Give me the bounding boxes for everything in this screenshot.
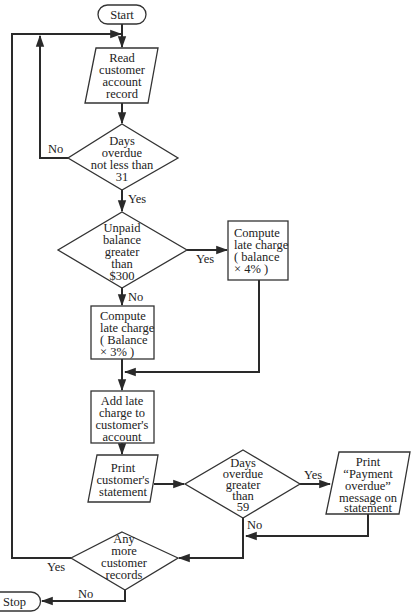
read-record-line: record [106, 87, 139, 101]
decision-days-overdue-59: Days overdue greater than 59 [185, 450, 300, 518]
decision-line: 31 [116, 170, 129, 184]
decision-days-overdue-31: Days overdue not less than 31 [68, 124, 178, 190]
print-payment-overdue-output: Print “Payment overdue” message on state… [326, 452, 410, 515]
process-line: × 3% ) [100, 345, 134, 359]
connector-days59-more [179, 518, 243, 558]
label-yes-more: Yes [47, 560, 65, 574]
connector-days31-no-loop [40, 36, 68, 158]
connectors [12, 24, 368, 601]
output-line: statement [344, 501, 392, 515]
start-label: Start [110, 8, 134, 22]
label-no-days31: No [48, 142, 63, 156]
decision-line: records [106, 568, 143, 582]
compute-late-charge-3pct: Compute late charge ( Balance × 3% ) [91, 306, 155, 359]
decision-balance-300: Unpaid balance greater than $300 [58, 212, 187, 288]
compute-late-charge-4pct: Compute late charge ( balance × 4% ) [228, 221, 289, 280]
process-line: × 4% ) [234, 262, 268, 276]
stop-terminal: Stop [0, 592, 41, 611]
start-terminal: Start [98, 5, 146, 24]
process-line: account [103, 430, 142, 444]
label-no-days59: No [247, 518, 262, 532]
label-yes-balance: Yes [196, 252, 214, 266]
connector-overdue-merge [246, 514, 368, 536]
add-late-charge: Add late charge to customer's account [91, 391, 154, 444]
decision-more-records: Any more customer records [71, 532, 178, 590]
label-yes-days59: Yes [304, 468, 322, 482]
read-record-input: Read customer account record [85, 48, 158, 103]
output-line: statement [99, 485, 147, 499]
label-no-more: No [78, 587, 93, 601]
print-statement-output: Print customer's statement [88, 455, 158, 502]
decision-line: $300 [110, 269, 135, 283]
decision-line: 59 [237, 500, 250, 514]
label-yes-days31: Yes [128, 192, 146, 206]
stop-label: Stop [3, 595, 26, 609]
label-no-balance: No [128, 290, 143, 304]
flowchart: Start Read customer account record Days … [0, 0, 414, 613]
